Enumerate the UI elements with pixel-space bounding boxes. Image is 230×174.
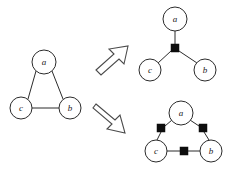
hyperedge-square-ac	[157, 124, 165, 132]
node-b-label: b	[203, 65, 208, 75]
edge-hac-c	[157, 132, 161, 140]
edge-a-b	[52, 71, 63, 99]
transform-arrow-up-right-icon	[96, 46, 128, 75]
edge-a-hac	[165, 120, 172, 126]
node-c-label: c	[148, 65, 152, 75]
edge-h1-b	[179, 51, 197, 63]
panel-triangle-hyperedge-graph: a c b	[145, 101, 222, 162]
edge-a-hab	[190, 120, 199, 126]
edge-a-c	[28, 71, 36, 99]
arrow-bottom-shape	[93, 104, 125, 133]
node-c-label: c	[154, 146, 158, 156]
node-b-label: b	[68, 103, 73, 113]
figure-root: a c b a c b	[0, 0, 230, 174]
node-c-label: c	[19, 103, 23, 113]
diagram-canvas: a c b a c b	[0, 0, 230, 174]
node-b-label: b	[209, 146, 214, 156]
node-a-label: a	[179, 108, 184, 118]
panel-triangle-graph: a c b	[10, 50, 81, 119]
node-a-label: a	[42, 57, 47, 67]
hyperedge-square-ab	[199, 124, 207, 132]
panel-star-hyperedge-graph: a c b	[139, 7, 216, 81]
node-a-label: a	[173, 14, 178, 24]
hyperedge-square-h1	[171, 44, 179, 52]
hyperedge-square-cb	[180, 147, 188, 155]
edge-h1-c	[158, 51, 171, 63]
transform-arrow-down-right-icon	[93, 104, 125, 133]
arrow-top-shape	[96, 46, 128, 75]
edge-hab-b	[204, 132, 209, 140]
